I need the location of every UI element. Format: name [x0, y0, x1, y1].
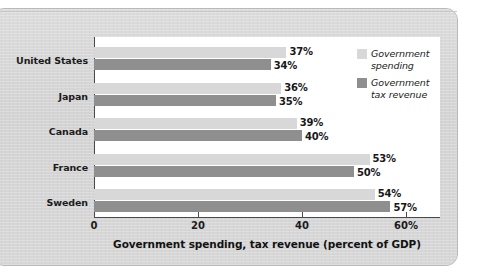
legend-swatch-spending-icon	[357, 49, 367, 59]
bar-value-united-states-tax-revenue: 34%	[274, 60, 297, 71]
x-tick-label-20: 20	[178, 220, 218, 231]
bar-japan-tax-revenue	[94, 95, 276, 106]
bar-united-states-tax-revenue	[94, 59, 271, 70]
legend-item-government-tax-revenue[interactable]: Government tax revenue	[357, 77, 441, 100]
legend-label-revenue-line2: tax revenue	[371, 89, 427, 100]
x-axis-title: Government spending, tax revenue (percen…	[94, 238, 440, 250]
bar-france-tax-revenue	[94, 166, 354, 177]
bar-value-france-spending: 53%	[373, 153, 396, 164]
bar-canada-spending	[94, 118, 297, 129]
category-label-canada: Canada	[0, 126, 88, 137]
legend-swatch-revenue-icon	[357, 78, 367, 88]
category-label-united-states: United States	[0, 55, 88, 66]
legend-label-spending-line1: Government	[371, 48, 429, 59]
legend-label-revenue-line1: Government	[371, 77, 429, 88]
legend-label-spending: Government spending	[371, 48, 429, 71]
bar-sweden-spending	[94, 189, 375, 200]
category-label-sweden: Sweden	[0, 197, 88, 208]
page-top-rule	[0, 11, 457, 12]
scanned-page: 0204060% United StatesJapanCanadaFranceS…	[0, 0, 480, 278]
legend-item-government-spending[interactable]: Government spending	[357, 48, 441, 71]
bar-value-japan-spending: 36%	[284, 82, 307, 93]
bar-sweden-tax-revenue	[94, 201, 390, 212]
bar-france-spending	[94, 154, 370, 165]
chart-legend: Government spending Government tax reven…	[357, 48, 441, 106]
bar-value-united-states-spending: 37%	[289, 46, 312, 57]
bar-value-france-tax-revenue: 50%	[357, 167, 380, 178]
x-tick-label-60: 60%	[386, 220, 426, 231]
bar-united-states-spending	[94, 47, 286, 58]
bar-japan-spending	[94, 83, 281, 94]
category-label-japan: Japan	[0, 91, 88, 102]
x-axis-line	[94, 217, 440, 218]
x-tick-20	[198, 212, 199, 217]
legend-label-revenue: Government tax revenue	[371, 77, 429, 100]
bar-value-canada-spending: 39%	[300, 117, 323, 128]
bar-value-sweden-spending: 54%	[378, 188, 401, 199]
x-tick-label-0: 0	[74, 220, 114, 231]
x-tick-40	[302, 212, 303, 217]
bar-value-sweden-tax-revenue: 57%	[393, 202, 416, 213]
bar-value-japan-tax-revenue: 35%	[279, 96, 302, 107]
category-label-france: France	[0, 162, 88, 173]
legend-label-spending-line2: spending	[371, 60, 414, 71]
x-tick-label-40: 40	[282, 220, 322, 231]
bar-value-canada-tax-revenue: 40%	[305, 131, 328, 142]
bar-canada-tax-revenue	[94, 130, 302, 141]
